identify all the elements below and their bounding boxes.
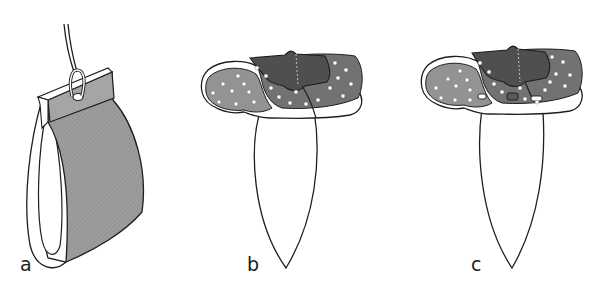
panel-c bbox=[421, 46, 582, 268]
cord bbox=[68, 24, 77, 72]
panel-b bbox=[201, 51, 362, 268]
panel-label-a: a bbox=[20, 255, 32, 274]
panel-label-c: c bbox=[471, 255, 481, 274]
panel-label-b: b bbox=[247, 255, 259, 274]
fastener-tab-left bbox=[478, 94, 486, 99]
hanging-loop bbox=[254, 110, 317, 268]
illustration-canvas bbox=[0, 0, 589, 289]
panel-a bbox=[27, 24, 144, 268]
fastener-buckle bbox=[507, 93, 518, 100]
hanging-loop bbox=[480, 108, 544, 268]
